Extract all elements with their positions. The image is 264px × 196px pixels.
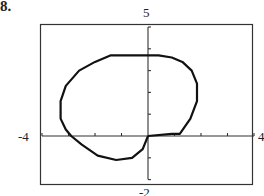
plot-frame [41,25,253,185]
graph-plot [0,0,264,196]
y-min-label: -2 [139,186,150,196]
y-max-label: 5 [143,6,150,19]
x-min-label: -4 [18,130,29,143]
curve [61,55,197,160]
x-max-label: 4 [258,130,264,143]
axes [42,27,254,180]
